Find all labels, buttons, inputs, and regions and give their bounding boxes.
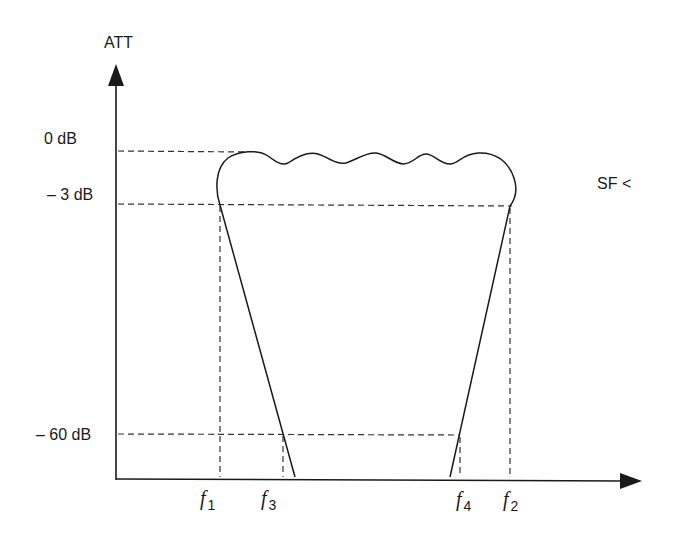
freq-label-f3: f3 [261,487,277,513]
freq-label-f4: f4 [456,488,472,514]
level-label-3db: – 3 dB [47,186,93,203]
freq-label-f1: f1 [200,487,216,513]
dash-0db [118,151,248,152]
freq-label-f2: f2 [503,488,519,514]
dash-60db [118,434,460,435]
axes [108,64,642,489]
y-axis-arrow-icon [108,64,124,86]
frequency-labels: f1 f3 f4 f2 [200,487,519,514]
x-axis [116,479,624,481]
bandpass-filter-diagram: ATT SF < 0 dB – 3 dB – 60 dB f1 f3 f4 f2 [0,0,679,539]
level-label-60db: – 60 dB [36,426,91,443]
level-label-0db: 0 dB [44,130,77,147]
x-axis-arrow-icon [620,473,642,489]
side-label: SF < [597,175,631,192]
y-axis-label: ATT [104,34,133,51]
reference-lines [118,151,512,477]
response-curve [217,152,516,477]
dash-3db [118,204,512,206]
